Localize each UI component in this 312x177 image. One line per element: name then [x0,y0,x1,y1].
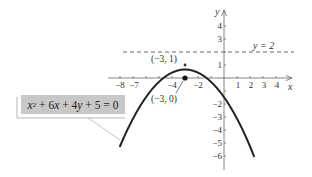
y-axis [222,10,227,170]
y-tick-label: 4 [218,21,223,31]
y-tick-label: −2 [212,99,222,109]
focus-point [182,75,187,80]
equation-part: + 6 [36,99,54,111]
x-tick-label: −2 [193,80,203,90]
y-tick-label: −4 [212,125,222,135]
x-tick-label: −4 [167,80,177,90]
equation-label: x2 + 6x + 4y + 5 = 0 [21,95,125,114]
y-tick-label: 1 [218,60,223,70]
x-tick-label: 2 [249,80,254,90]
y-axis-label: y [214,6,220,17]
parabola-curve [120,70,254,157]
x-tick-label: −7 [129,80,139,90]
y-tick-label: −6 [212,151,222,161]
x-tick-label: 4 [275,80,280,90]
x-tick-label: 3 [262,80,267,90]
x-tick-label: −8 [115,80,125,90]
equation-leader-line [88,118,120,140]
equation-part: + 5 = 0 [82,99,118,111]
y-tick-label: −3 [212,112,222,122]
y-tick-label: 3 [218,34,223,44]
parabola-figure: −8 −7 −4 −2 1 2 3 4 x 4 3 1 −2 −3 −4 −5 … [0,0,312,177]
equation-part: + 4 [59,99,77,111]
focus-label: (−3, 0) [151,94,177,105]
x-tick-label: 1 [236,80,241,90]
vertex-point [184,64,187,67]
vertex-label: (−3, 1) [151,54,177,65]
y-tick-label: −5 [212,138,222,148]
focus-leader-line [176,81,183,93]
directrix-label: y = 2 [252,40,274,51]
x-axis-label: x [287,81,293,92]
